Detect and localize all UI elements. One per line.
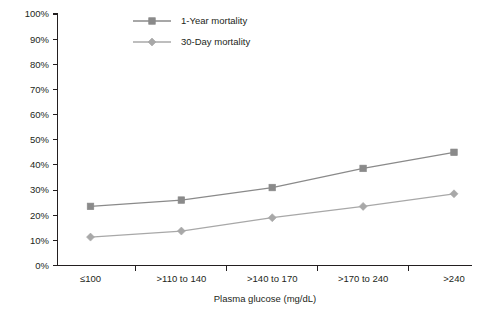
data-point-marker <box>360 165 367 172</box>
y-tick-label: 40% <box>30 159 50 170</box>
legend-label: 30-Day mortality <box>181 36 250 47</box>
x-tick-label: >170 to 240 <box>338 273 388 284</box>
data-point-marker <box>87 203 94 210</box>
y-tick-label: 10% <box>30 235 50 246</box>
y-tick-label: 70% <box>30 84 50 95</box>
x-tick-label: >140 to 170 <box>247 273 297 284</box>
legend-marker <box>149 18 156 25</box>
y-tick-label: 80% <box>30 59 50 70</box>
chart-canvas: 0%10%20%30%40%50%60%70%80%90%100% ≤100>1… <box>0 0 485 317</box>
chart-background <box>0 0 485 317</box>
y-tick-label: 100% <box>25 8 50 19</box>
x-axis-title: Plasma glucose (mg/dL) <box>214 293 316 304</box>
data-point-marker <box>451 149 458 156</box>
y-tick-label: 20% <box>30 210 50 221</box>
y-tick-label: 50% <box>30 134 50 145</box>
y-tick-label: 30% <box>30 184 50 195</box>
legend-label: 1-Year mortality <box>181 15 247 26</box>
data-point-marker <box>178 197 185 204</box>
y-tick-label: 60% <box>30 109 50 120</box>
mortality-line-chart: 0%10%20%30%40%50%60%70%80%90%100% ≤100>1… <box>0 0 485 317</box>
x-tick-label: >240 <box>443 273 464 284</box>
x-tick-label: >110 to 140 <box>157 273 207 284</box>
data-point-marker <box>269 184 276 191</box>
x-tick-label: ≤100 <box>80 273 101 284</box>
y-tick-label: 90% <box>30 34 50 45</box>
y-tick-label: 0% <box>35 260 49 271</box>
